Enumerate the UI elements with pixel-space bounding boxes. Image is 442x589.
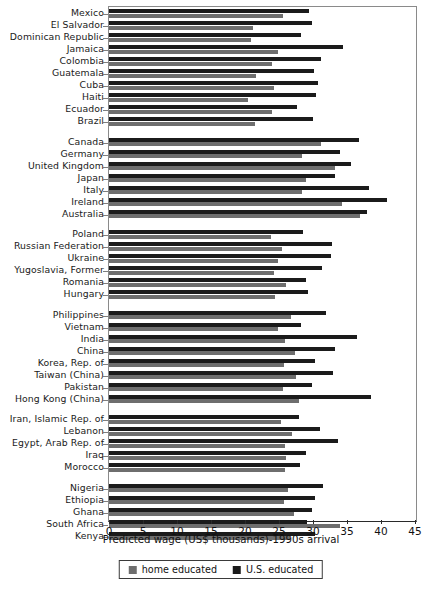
bar-home-educated [109, 235, 271, 239]
bar-us-educated [109, 174, 335, 178]
category-tick [103, 328, 108, 329]
category-label: Iraq [85, 450, 104, 460]
category-label: China [77, 346, 104, 356]
category-tick [103, 316, 108, 317]
category-tick [103, 295, 108, 296]
category-tick [103, 400, 108, 401]
bar-us-educated [109, 496, 315, 500]
category-label: Morocco [64, 462, 104, 472]
category-tick [103, 501, 108, 502]
bar-us-educated [109, 69, 314, 73]
bar-home-educated [109, 202, 342, 206]
legend-swatch-us-educated-icon [233, 566, 241, 574]
bar-home-educated [109, 399, 299, 403]
category-tick [103, 340, 108, 341]
category-label: India [81, 334, 104, 344]
category-label: Cuba [80, 80, 104, 90]
category-tick [103, 203, 108, 204]
bar-us-educated [109, 463, 300, 467]
category-label: Guatemala [52, 68, 104, 78]
bar-home-educated [109, 456, 286, 460]
category-tick [103, 50, 108, 51]
category-tick [103, 26, 108, 27]
bar-us-educated [109, 210, 367, 214]
bar-home-educated [109, 432, 292, 436]
category-label: Mexico [71, 8, 104, 18]
bar-home-educated [109, 38, 251, 42]
category-tick [103, 283, 108, 284]
chart-row: Hong Kong (China) [0, 395, 442, 407]
category-tick [103, 271, 108, 272]
bar-us-educated [109, 415, 299, 419]
category-label: El Salvador [51, 20, 104, 30]
bar-us-educated [109, 254, 331, 258]
bar-home-educated [109, 295, 275, 299]
bar-us-educated [109, 508, 312, 512]
category-tick [103, 98, 108, 99]
x-axis-tick [177, 520, 178, 524]
bar-home-educated [109, 387, 283, 391]
chart-row: Ecuador [0, 105, 442, 117]
category-label: Pakistan [64, 382, 104, 392]
chart-row: Russian Federation [0, 242, 442, 254]
bar-home-educated [109, 327, 278, 331]
bar-home-educated [109, 166, 335, 170]
x-axis-tick [143, 520, 144, 524]
category-label: Ethiopia [65, 495, 104, 505]
bar-home-educated [109, 363, 284, 367]
category-tick [103, 167, 108, 168]
bar-home-educated [109, 74, 256, 78]
category-label: Korea, Rep. of [38, 358, 104, 368]
bar-home-educated [109, 375, 296, 379]
bar-home-educated [109, 154, 302, 158]
bar-us-educated [109, 278, 306, 282]
bar-home-educated [109, 259, 278, 263]
category-tick [103, 191, 108, 192]
bar-rows-container: MexicoEl SalvadorDominican RepublicJamai… [0, 0, 442, 520]
bar-us-educated [109, 150, 340, 154]
bar-us-educated [109, 311, 326, 315]
category-label: Romania [63, 277, 104, 287]
bar-home-educated [109, 86, 274, 90]
chart-row: United Kingdom [0, 162, 442, 174]
bar-home-educated [109, 512, 294, 516]
bar-home-educated [109, 271, 274, 275]
bar-us-educated [109, 359, 315, 363]
chart-legend: home educated U.S. educated [119, 560, 323, 579]
bar-home-educated [109, 339, 285, 343]
category-tick [103, 444, 108, 445]
legend-label-home-educated: home educated [142, 564, 217, 575]
category-label: Egypt, Arab Rep. of [12, 438, 104, 448]
bar-us-educated [109, 198, 387, 202]
legend-item-home-educated: home educated [129, 564, 217, 575]
category-label: Japan [78, 173, 104, 183]
category-tick [103, 420, 108, 421]
category-label: Vietnam [65, 322, 104, 332]
category-label: Taiwan (China) [34, 370, 104, 380]
category-tick [103, 38, 108, 39]
category-tick [103, 456, 108, 457]
category-tick [103, 86, 108, 87]
bar-us-educated [109, 138, 359, 142]
category-tick [103, 62, 108, 63]
bar-home-educated [109, 488, 288, 492]
chart-row: Morocco [0, 463, 442, 475]
category-label: Russian Federation [14, 241, 104, 251]
category-label: Ireland [71, 197, 104, 207]
category-label: Haiti [82, 92, 104, 102]
category-tick [103, 468, 108, 469]
bar-home-educated [109, 500, 284, 504]
bar-us-educated [109, 93, 316, 97]
chart-row: Australia [0, 210, 442, 222]
bar-home-educated [109, 62, 272, 66]
bar-us-educated [109, 439, 338, 443]
bar-home-educated [109, 142, 321, 146]
chart-row: Egypt, Arab Rep. of [0, 439, 442, 451]
bar-home-educated [109, 283, 286, 287]
bar-home-educated [109, 190, 302, 194]
bar-us-educated [109, 451, 306, 455]
bar-home-educated [109, 98, 248, 102]
category-label: Brazil [77, 116, 104, 126]
wage-comparison-bar-chart: MexicoEl SalvadorDominican RepublicJamai… [0, 0, 442, 589]
x-axis-tick [109, 520, 110, 524]
